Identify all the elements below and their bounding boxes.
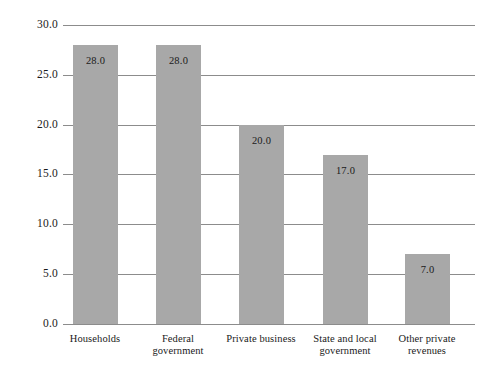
ytick-label-5: 5.0 bbox=[24, 268, 58, 280]
bar-households bbox=[73, 45, 118, 324]
bar-private-business bbox=[239, 125, 284, 324]
bar-chart: 30.0 25.0 20.0 15.0 10.0 5.0 0.0 bbox=[0, 0, 495, 373]
ytick-label-20: 20.0 bbox=[24, 119, 58, 131]
category-label-other-private-revenues: Other private revenues bbox=[372, 333, 482, 356]
category-label-line: government bbox=[123, 345, 233, 357]
category-label-line: Other private bbox=[372, 333, 482, 345]
axis-baseline bbox=[63, 324, 475, 325]
category-label-line: revenues bbox=[372, 345, 482, 357]
bar-value-private-business: 20.0 bbox=[239, 136, 284, 147]
bar-value-households: 28.0 bbox=[73, 56, 118, 67]
gridline-30 bbox=[63, 25, 475, 26]
bar-value-other-private-revenues: 7.0 bbox=[405, 265, 450, 276]
ytick-label-10: 10.0 bbox=[24, 218, 58, 230]
bar-federal-government bbox=[156, 45, 201, 324]
plot-area: 30.0 25.0 20.0 15.0 10.0 5.0 0.0 bbox=[0, 0, 495, 373]
gridline-25 bbox=[63, 75, 475, 76]
bar-value-federal-government: 28.0 bbox=[156, 56, 201, 67]
ytick-label-15: 15.0 bbox=[24, 168, 58, 180]
ytick-label-25: 25.0 bbox=[24, 69, 58, 81]
ytick-label-30: 30.0 bbox=[24, 19, 58, 31]
ytick-label-0: 0.0 bbox=[24, 318, 58, 330]
bar-value-state-and-local-government: 17.0 bbox=[323, 166, 368, 177]
bar-state-and-local-government bbox=[323, 155, 368, 324]
